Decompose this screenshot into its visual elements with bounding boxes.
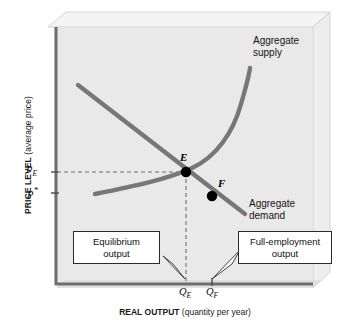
point-e-label: E [180,151,187,163]
tick-label-pe-sub: E [32,169,37,178]
aggregate-demand-label: Aggregate demand [249,198,295,221]
callout-equilibrium-output: Equilibrium output [73,231,160,264]
y-axis-title-rest: (average price) [23,96,33,155]
aggregate-demand-label-line1: Aggregate [249,198,295,210]
tick-label-qe-sub: E [187,291,192,300]
callout-full-employment-output: Full-employment output [238,231,332,264]
point-e-marker [181,167,191,177]
tick-label-qf-base: Q [206,286,214,297]
as-ad-diagram: PRICE LEVEL (average price) REAL OUTPUT … [0,0,357,326]
x-axis-title: REAL OUTPUT (quantity per year) [55,307,315,317]
point-f-marker [207,191,217,201]
tick-label-pstar: P* [27,185,38,200]
tick-label-qf: QF [206,286,218,300]
aggregate-supply-label-line2: supply [253,47,299,59]
tick-label-qf-sub: F [214,291,219,300]
callout-full-employment-line2: output [242,248,328,260]
tick-label-pe: PE [26,164,37,178]
tick-label-qe-base: Q [179,286,187,297]
callout-equilibrium-line1: Equilibrium [77,236,156,248]
box-top-bevel [48,12,330,27]
aggregate-supply-label-line1: Aggregate [253,35,299,47]
tick-label-pstar-sup: * [33,185,38,195]
point-f-label: F [218,177,225,189]
callout-full-employment-line1: Full-employment [242,236,328,248]
callout-equilibrium-line2: output [77,248,156,260]
x-axis-title-bold: REAL OUTPUT [119,307,179,317]
x-axis-title-rest: (quantity per year) [182,307,251,317]
diagram-canvas [0,0,357,326]
aggregate-supply-label: Aggregate supply [253,35,299,58]
y-axis-title: PRICE LEVEL (average price) [23,80,33,230]
aggregate-demand-label-line2: demand [249,210,295,222]
tick-label-qe: QE [179,286,191,300]
